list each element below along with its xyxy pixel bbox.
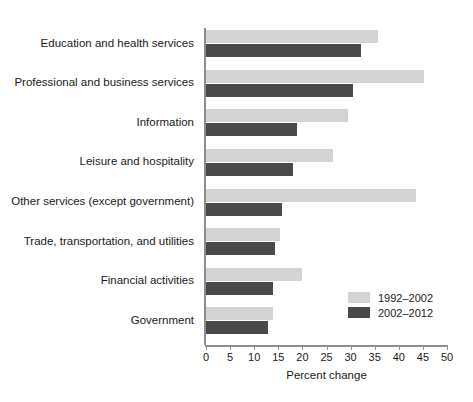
category-label: Information [136,116,194,129]
bar-series-1 [206,70,424,83]
category-label: Financial activities [101,274,194,287]
legend-swatch-icon-2002-2012 [348,307,370,318]
bar-series-2 [206,321,268,334]
x-tick-label: 45 [411,351,435,363]
x-tick-mark [278,345,279,350]
x-tick-mark [327,345,328,350]
bar-series-2 [206,84,353,97]
bar-series-1 [206,307,273,320]
x-tick-mark [254,345,255,350]
x-tick-mark [351,345,352,350]
x-tick-label: 25 [315,351,339,363]
bar-series-2 [206,282,273,295]
bar-series-1 [206,149,333,162]
x-tick-mark [375,345,376,350]
category-label: Other services (except government) [11,195,194,208]
bar-series-2 [206,203,282,216]
x-tick-label: 15 [266,351,290,363]
x-tick-mark [447,345,448,350]
chart-legend: 1992–2002 2002–2012 [348,291,433,321]
bar-series-2 [206,123,297,136]
bar-series-1 [206,268,302,281]
x-tick-label: 5 [218,351,242,363]
legend-label-1992-2002: 1992–2002 [378,292,433,304]
category-label: Trade, transportation, and utilities [24,235,194,248]
x-tick-label: 50 [435,351,459,363]
x-tick-mark [230,345,231,350]
x-axis-title: Percent change [206,369,447,381]
x-tick-label: 10 [242,351,266,363]
x-tick-label: 30 [339,351,363,363]
category-label: Education and health services [41,37,194,50]
x-tick-mark [302,345,303,350]
x-tick-mark [423,345,424,350]
category-axis-labels: Education and health servicesProfessiona… [0,28,200,345]
bar-series-1 [206,30,378,43]
legend-item-series-2: 2002–2012 [348,306,433,319]
bar-series-1 [206,109,348,122]
legend-item-series-1: 1992–2002 [348,291,433,304]
bar-series-2 [206,242,275,255]
bar-series-2 [206,163,293,176]
category-label: Government [131,314,194,327]
legend-label-2002-2012: 2002–2012 [378,307,433,319]
percent-change-bar-chart: Education and health servicesProfessiona… [0,0,473,402]
legend-swatch-icon-1992-2002 [348,292,370,303]
x-tick-mark [206,345,207,350]
bar-series-2 [206,44,361,57]
x-tick-label: 0 [194,351,218,363]
x-tick-mark [399,345,400,350]
bar-series-1 [206,228,280,241]
category-label: Leisure and hospitality [80,155,194,168]
x-tick-label: 40 [387,351,411,363]
category-label: Professional and business services [14,76,194,89]
x-tick-label: 35 [363,351,387,363]
bar-series-1 [206,189,416,202]
x-tick-label: 20 [290,351,314,363]
